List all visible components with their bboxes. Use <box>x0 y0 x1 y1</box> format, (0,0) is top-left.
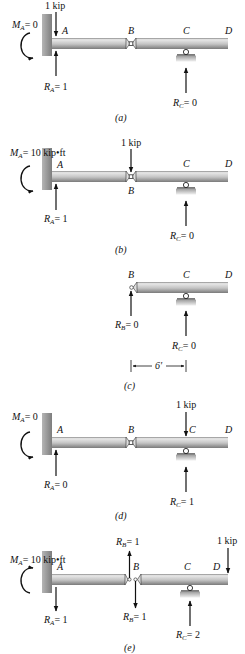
moment-arrow-icon <box>21 432 33 457</box>
beam-segment-bd <box>141 574 228 585</box>
hinge-b <box>126 437 136 448</box>
node-c-label: C <box>184 561 191 572</box>
hinge-pin-icon <box>130 286 134 290</box>
reaction-b-label: RB= 0 <box>114 319 139 332</box>
roller-support-c <box>180 585 200 597</box>
node-a-label: A <box>56 424 64 435</box>
beam-segment-bd <box>136 437 228 448</box>
node-b-label: B <box>128 25 134 36</box>
beam-segment-bd <box>137 282 228 293</box>
beam-segment-bd <box>136 38 228 49</box>
panel-caption: (a) <box>115 112 127 124</box>
reaction-c-label: RC= 0 <box>172 97 197 110</box>
load-label: 1 kip <box>121 137 141 148</box>
moment-arrow-icon <box>21 166 33 191</box>
node-d-label: D <box>224 158 233 169</box>
load-label: 1 kip <box>176 399 196 410</box>
fixed-wall-support <box>42 14 52 56</box>
beam-segment-ab <box>52 171 126 182</box>
dimension-line: 6′ <box>131 360 186 372</box>
panel-b: MA= 10 kip•ft 1 kip A B C D RA= 1 RC= 0 … <box>9 137 233 256</box>
reaction-a-label: RA= 0 <box>43 479 68 492</box>
load-label: 1 kip <box>217 535 237 546</box>
panel-caption: (d) <box>115 510 127 522</box>
hinge-b <box>126 38 136 49</box>
reaction-c-label: RC= 0 <box>169 230 194 243</box>
panel-e: MA= 10 kip•ft 1 kip A B C D RA= 1 RB= 1 … <box>9 535 237 654</box>
hinge-b-separated <box>125 574 141 585</box>
reaction-b-down-label: RB= 1 <box>122 611 147 624</box>
node-c-label: C <box>189 424 196 435</box>
node-b-label: B <box>128 424 134 435</box>
fixed-wall-support <box>42 413 52 455</box>
reaction-a-label: RA= 1 <box>43 213 68 226</box>
node-c-label: C <box>183 269 190 280</box>
reaction-a-label: RA= 1 <box>43 81 68 94</box>
panel-c: B C D RB= 0 RC= 0 6′ (c) <box>114 269 233 392</box>
beam-segment-ab <box>52 38 126 49</box>
moment-arrow-icon <box>21 33 33 58</box>
panel-caption: (c) <box>124 380 136 392</box>
node-d-label: D <box>224 269 233 280</box>
roller-support-c <box>176 448 196 460</box>
node-a-label: A <box>61 25 69 36</box>
node-c-label: C <box>183 158 190 169</box>
panel-caption: (e) <box>124 642 136 654</box>
beam-segment-ab <box>52 574 125 585</box>
roller-support-c <box>176 293 196 305</box>
beam-segment-ab <box>52 437 126 448</box>
moment-label: MA= 0 <box>11 411 38 424</box>
panel-caption: (b) <box>115 244 127 256</box>
reaction-c-label: RC= 0 <box>171 340 196 353</box>
reaction-c-label: RC= 1 <box>169 496 194 509</box>
panel-a: MA= 0 1 kip A B C D RA= 1 RC= 0 (a) <box>11 0 233 124</box>
load-label: 1 kip <box>45 0 65 11</box>
panel-d: MA= 0 1 kip A B C D RA= 0 RC= 1 (d) <box>11 399 233 522</box>
node-b-label: B <box>133 561 139 572</box>
node-d-label: D <box>212 561 221 572</box>
node-a-label: A <box>56 561 64 572</box>
node-c-label: C <box>183 25 190 36</box>
roller-support-c <box>176 49 196 61</box>
reaction-a-label: RA= 1 <box>43 614 68 627</box>
node-d-label: D <box>224 25 233 36</box>
reaction-c-label: RC= 2 <box>175 629 200 642</box>
moment-label: MA= 0 <box>11 19 38 32</box>
reaction-b-up-label: RB= 1 <box>115 536 140 549</box>
influence-line-figure: MA= 0 1 kip A B C D RA= 1 RC= 0 (a) MA= … <box>0 0 245 654</box>
node-b-label: B <box>128 269 134 280</box>
hinge-b <box>126 171 136 182</box>
beam-segment-bd <box>136 171 228 182</box>
node-b-label: B <box>128 185 134 196</box>
dimension-label: 6′ <box>155 360 163 371</box>
moment-arrow-icon <box>21 568 33 593</box>
node-a-label: A <box>56 159 64 170</box>
roller-support-c <box>176 182 196 194</box>
node-d-label: D <box>224 424 233 435</box>
